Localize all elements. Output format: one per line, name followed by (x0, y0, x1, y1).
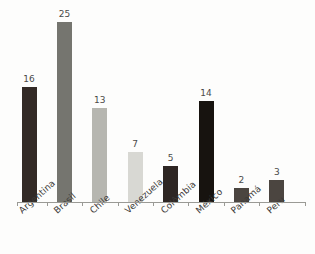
bar-argentina (22, 87, 37, 202)
x-axis-label-peru: Peru (265, 194, 287, 215)
bar-value-label: 13 (80, 95, 120, 105)
bar-chart: 16Argentina25Brasil13Chile7Venezuela5Col… (0, 0, 315, 254)
bar-value-label: 7 (115, 139, 155, 149)
bar-value-label: 5 (151, 153, 191, 163)
x-axis-line (17, 202, 306, 203)
bar-value-label: 14 (186, 88, 226, 98)
bar-value-label: 16 (9, 74, 49, 84)
plot-area: 16Argentina25Brasil13Chile7Venezuela5Col… (0, 0, 315, 254)
bar-value-label: 3 (257, 167, 297, 177)
bar-mxico (199, 101, 214, 202)
bar-chile (92, 108, 107, 202)
bar-value-label: 25 (44, 9, 84, 19)
bar-brasil (57, 22, 72, 202)
